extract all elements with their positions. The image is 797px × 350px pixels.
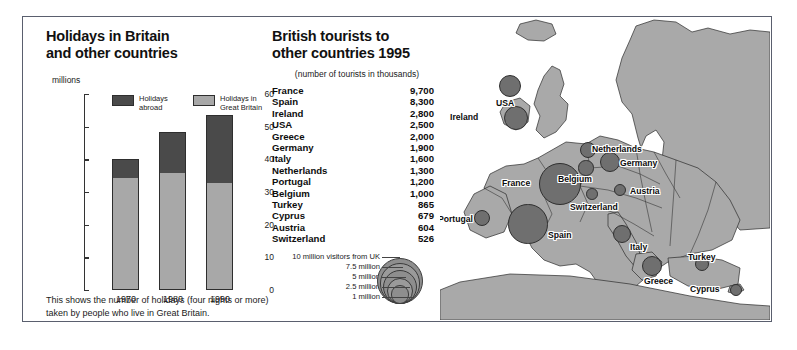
- bar-chart-caption: This shows the number of holidays (four …: [46, 294, 281, 319]
- size-legend-label-5: 5 million: [352, 272, 380, 281]
- legend-swatch-great-britain: [193, 95, 215, 106]
- tourist-table-title: British tourists to other countries 1995: [272, 28, 442, 62]
- tourist-table-body: France9,700Spain8,300Ireland2,800USA2,50…: [272, 85, 434, 245]
- table-cell-value: 604: [385, 222, 434, 233]
- table-cell-value: 9,700: [385, 85, 434, 96]
- table-row: Belgium1,000: [272, 188, 434, 199]
- size-legend-leader-line-10: [382, 257, 400, 258]
- bar-1990: [206, 115, 233, 290]
- bar-chart-title: Holidays in Britain and other countries: [46, 28, 274, 62]
- table-row: Spain8,300: [272, 96, 434, 107]
- table-cell-value: 2,800: [385, 108, 434, 119]
- map-label-spain: Spain: [548, 230, 571, 240]
- map-bubble-portugal: [474, 210, 490, 226]
- table-row: Greece2,000: [272, 131, 434, 142]
- size-legend-leader-line-1: [382, 297, 414, 298]
- table-cell-country: Germany: [272, 142, 385, 153]
- y-tick-label-40: 40: [240, 154, 274, 164]
- map-label-france: France: [502, 178, 530, 188]
- table-cell-country: Belgium: [272, 188, 385, 199]
- table-cell-value: 679: [385, 210, 434, 221]
- y-tick-40: [84, 159, 89, 160]
- size-legend-label-10: 10 million visitors from UK: [292, 252, 380, 261]
- table-row: Germany1,900: [272, 142, 434, 153]
- table-cell-value: 1,600: [385, 153, 434, 164]
- table-cell-value: 2,000: [385, 131, 434, 142]
- map-label-usa: USA: [496, 98, 514, 108]
- map-bubble-ireland: [504, 106, 528, 130]
- table-row: Austria604: [272, 222, 434, 233]
- table-cell-country: Cyprus: [272, 210, 385, 221]
- bar-chart-title-line2: and other countries: [46, 45, 274, 62]
- table-row: Portugal1,200: [272, 176, 434, 187]
- bar-segment-great-britain-1990: [207, 183, 232, 289]
- table-row: Netherlands1,300: [272, 165, 434, 176]
- tourist-table-panel: British tourists to other countries 1995…: [272, 28, 442, 245]
- table-row: USA2,500: [272, 119, 434, 130]
- table-cell-country: Greece: [272, 131, 385, 142]
- infographic-page: Holidays in Britain and other countries …: [0, 0, 797, 350]
- europe-map: USAIrelandNetherlandsGermanyBelgiumFranc…: [440, 18, 770, 320]
- table-cell-country: USA: [272, 119, 385, 130]
- legend-label-abroad: Holidays abroad: [139, 94, 201, 112]
- table-cell-country: Spain: [272, 96, 385, 107]
- table-row: Italy1,600: [272, 153, 434, 164]
- map-bubble-greece: [642, 256, 663, 277]
- bar-chart-panel: Holidays in Britain and other countries …: [46, 28, 274, 318]
- y-axis-unit-label: millions: [52, 75, 80, 85]
- y-tick-0: [84, 290, 89, 291]
- y-tick-label-30: 30: [240, 187, 274, 197]
- legend-label-abroad-line1: Holidays: [139, 94, 201, 103]
- table-row: Turkey865: [272, 199, 434, 210]
- bar-1980: [159, 132, 186, 290]
- table-cell-value: 865: [385, 199, 434, 210]
- bar-1970: [112, 159, 139, 290]
- bar-segment-abroad-1980: [160, 133, 185, 175]
- table-cell-country: Portugal: [272, 176, 385, 187]
- table-row: France9,700: [272, 85, 434, 96]
- legend-swatch-abroad: [112, 95, 134, 106]
- size-legend-label-2-5: 2.5 million: [346, 282, 380, 291]
- bar-chart-title-line1: Holidays in Britain: [46, 28, 274, 45]
- table-cell-value: 2,500: [385, 119, 434, 130]
- bar-segment-abroad-1990: [207, 116, 232, 185]
- table-cell-country: France: [272, 85, 385, 96]
- size-legend-leader-line-7-5: [382, 267, 403, 268]
- size-legend-label-7-5: 7.5 million: [346, 262, 380, 271]
- table-row: Ireland2,800: [272, 108, 434, 119]
- table-cell-country: Italy: [272, 153, 385, 164]
- size-legend-leader-line-5: [382, 277, 406, 278]
- map-label-belgium: Belgium: [558, 174, 592, 184]
- map-bubble-italy: [613, 225, 632, 244]
- size-legend-circle-1: [391, 285, 410, 304]
- map-label-germany: Germany: [620, 158, 657, 168]
- map-label-austria: Austria: [630, 186, 660, 196]
- table-cell-value: 1,200: [385, 176, 434, 187]
- map-bubble-germany: [600, 152, 620, 172]
- bar-segment-great-britain-1970: [113, 178, 138, 289]
- table-cell-value: 1,300: [385, 165, 434, 176]
- map-overlay-layer: USAIrelandNetherlandsGermanyBelgiumFranc…: [440, 18, 770, 320]
- size-legend-label-1: 1 million: [352, 292, 380, 301]
- tourist-table: France9,700Spain8,300Ireland2,800USA2,50…: [272, 85, 434, 245]
- map-label-switzerland: Switzerland: [570, 202, 618, 212]
- y-tick-10: [84, 257, 89, 258]
- y-tick-label-10: 10: [240, 252, 274, 262]
- bubble-size-legend: 10 million visitors from UK7.5 million5 …: [272, 250, 442, 310]
- map-label-italy: Italy: [630, 242, 647, 252]
- map-label-cyprus: Cyprus: [690, 284, 720, 294]
- y-tick-60: [84, 94, 89, 95]
- y-tick-50: [84, 127, 89, 128]
- table-cell-country: Turkey: [272, 199, 385, 210]
- table-cell-country: Netherlands: [272, 165, 385, 176]
- legend-label-abroad-line2: abroad: [139, 103, 201, 112]
- bar-segment-great-britain-1980: [160, 173, 185, 289]
- y-tick-30: [84, 192, 89, 193]
- map-bubble-usa: [499, 75, 522, 98]
- table-row: Cyprus679: [272, 210, 434, 221]
- y-tick-label-50: 50: [240, 122, 274, 132]
- tourist-table-title-line1: British tourists to: [272, 28, 442, 45]
- table-cell-country: Austria: [272, 222, 385, 233]
- table-cell-value: 1,900: [385, 142, 434, 153]
- map-label-turkey: Turkey: [688, 252, 716, 262]
